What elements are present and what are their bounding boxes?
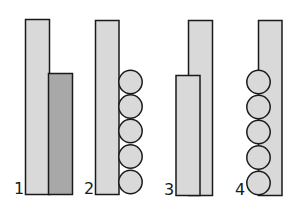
figure-1-label: 1 [14,179,24,198]
diagram-canvas: 1 2 3 4 [0,0,293,206]
figure-2-circle-3 [119,119,142,142]
figure-1: 1 [14,20,73,199]
figure-3: 3 [164,21,213,200]
figure-2-circle-1 [119,70,142,93]
figure-3-label: 3 [164,180,174,199]
figure-2: 2 [84,21,142,199]
figure-4-circle-5 [247,171,270,194]
figure-4-circle-1 [247,70,270,93]
figure-1-short-dark-bar [49,74,73,195]
figure-2-label: 2 [84,179,94,198]
figure-3-short-front-bar [176,76,200,196]
figure-1-tall-bar [26,20,50,195]
figure-4-circle-2 [247,95,270,118]
figure-4: 4 [235,21,282,200]
figure-2-circle-2 [119,95,142,118]
figure-2-tall-bar [96,21,120,195]
figure-4-circle-4 [247,146,270,169]
figure-2-circle-4 [119,145,142,168]
figure-4-circle-3 [247,120,270,143]
figure-4-label: 4 [235,180,245,199]
figure-2-circle-5 [119,170,142,193]
